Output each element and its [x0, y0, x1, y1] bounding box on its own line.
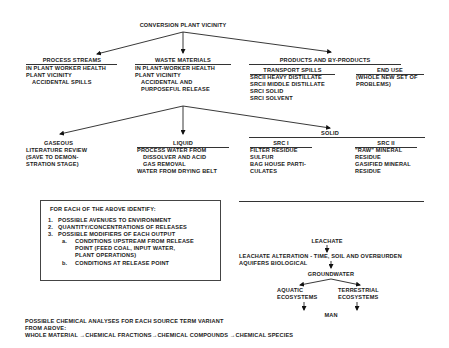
chain-step: CHEMICAL COMPOUNDS — [157, 332, 228, 338]
groundwater-label: GROUNDWATER — [300, 271, 362, 278]
liquid-item: WATER FROM DRYING BELT — [137, 168, 217, 175]
leachate-title: LEACHATE — [300, 238, 354, 245]
aquatic-label: ECOSYSTEMS — [277, 294, 317, 301]
identify-heading: FOR EACH OF THE ABOVE IDENTIFY: — [50, 206, 156, 213]
terrestrial-label: ECOSYSTEMS — [338, 294, 378, 301]
products-divider — [249, 64, 401, 65]
item-number: 1. — [48, 217, 53, 223]
chain-step: CHEMICAL FRACTIONS — [85, 332, 151, 338]
end-use-item: PROBLEMS) — [356, 81, 391, 88]
identify-subitem-a-num: a. — [62, 238, 67, 245]
solid-divider — [249, 137, 425, 138]
identify-subitem-a-line: PLANT OPERATIONS) — [75, 252, 136, 259]
leachate-alteration-line: AQUIFERS BIOLOGICAL — [239, 260, 307, 267]
root-node-label: CONVERSION PLANT VICINITY — [133, 22, 233, 29]
src2-item: RESIDUE — [355, 168, 381, 175]
item-number: 3. — [48, 231, 53, 237]
man-label: MAN — [315, 312, 347, 319]
item-text: POSSIBLE AVENUES TO ENVIRONMENT — [58, 217, 171, 223]
chain-step: WHOLE MATERIAL — [25, 332, 78, 338]
connector-lines — [0, 0, 449, 348]
src1-item: CULATES — [250, 168, 277, 175]
identify-subitem-b-num: b. — [62, 260, 67, 267]
chain-step: CHEMICAL SPECIES — [236, 332, 294, 338]
waste-materials-item: PURPOSEFUL RELEASE — [135, 86, 210, 93]
item-text: QUANTITY/CONCENTRATIONS OF RELEASES — [58, 224, 187, 230]
identify-subitem-b-line: CONDITIONS AT RELEASE POINT — [75, 260, 169, 267]
process-streams-item: ACCIDENTAL SPILLS — [26, 79, 92, 86]
analysis-chain: WHOLE MATERIAL →CHEMICAL FRACTIONS→CHEMI… — [25, 332, 293, 339]
leachate-top-divider — [239, 201, 424, 202]
gaseous-item: STRATION STAGE) — [26, 161, 79, 168]
item-number: 2. — [48, 224, 53, 230]
item-text: POSSIBLE MODIFIERS OF EACH OUTPUT — [58, 231, 175, 237]
transport-spills-item: SRCI SOLVENT — [250, 95, 293, 102]
